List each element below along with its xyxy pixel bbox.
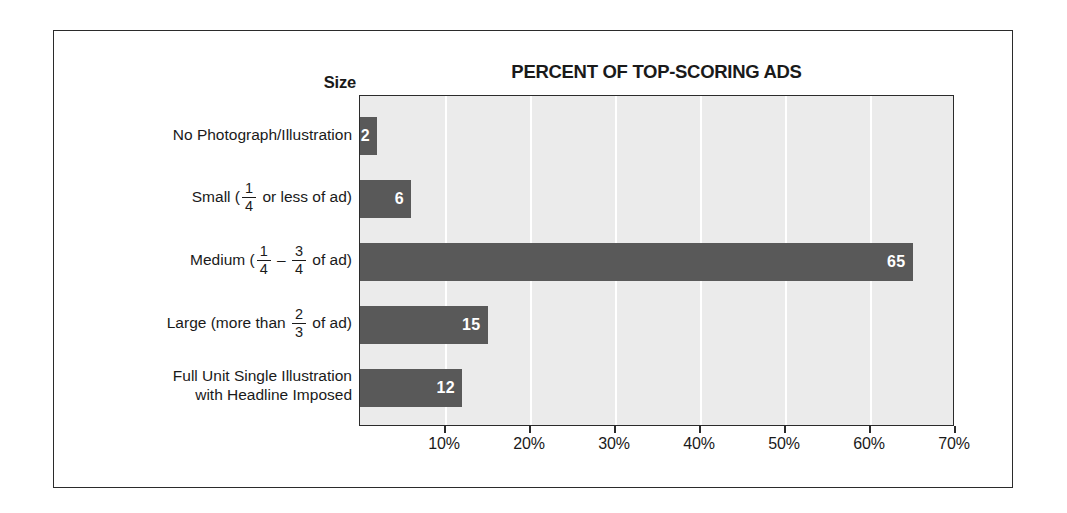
bar-value-label: 15: [462, 317, 481, 333]
fraction-denominator: 4: [257, 261, 271, 277]
x-tick-label-20: 20%: [494, 435, 564, 453]
bar-value-label: 6: [395, 191, 404, 207]
x-tick-label-30: 30%: [579, 435, 649, 453]
bar[interactable]: 12: [360, 369, 462, 407]
fraction: 23: [292, 307, 306, 339]
label-text: Small (: [192, 188, 240, 205]
label-text: Medium (: [190, 251, 255, 268]
label-text: –: [273, 251, 290, 268]
chart-figure: Size PERCENT OF TOP-SCORING ADS No Photo…: [53, 30, 1013, 488]
plot-area: 26651512: [359, 95, 954, 426]
x-tick-label-50: 50%: [749, 435, 819, 453]
bar-row: 6: [360, 180, 955, 218]
x-tick-60: [869, 426, 871, 433]
bar-row: 12: [360, 369, 955, 407]
x-tick-label-10: 10%: [409, 435, 479, 453]
category-label-line: Small (14 or less of ad): [192, 182, 352, 214]
fraction-numerator: 3: [292, 244, 306, 261]
bar-series: 26651512: [360, 96, 953, 425]
bar-row: 65: [360, 243, 955, 281]
x-tick-label-70: 70%: [919, 435, 989, 453]
fraction: 34: [292, 244, 306, 276]
category-label-medium: Medium (14 – 34 of ad): [114, 242, 352, 280]
fraction-denominator: 3: [292, 324, 306, 340]
fraction-denominator: 4: [292, 261, 306, 277]
label-text: of ad): [308, 314, 352, 331]
label-text: of ad): [308, 251, 352, 268]
fraction-numerator: 1: [242, 181, 256, 198]
fraction-numerator: 2: [292, 307, 306, 324]
category-label-line: Large (more than 23 of ad): [167, 308, 352, 340]
x-tick-70: [954, 426, 956, 433]
category-label-full-unit: Full Unit Single Illustrationwith Headli…: [114, 367, 352, 405]
bar-value-label: 65: [887, 254, 906, 270]
fraction: 14: [242, 181, 256, 213]
label-text: Full Unit Single Illustration: [173, 367, 352, 384]
x-tick-40: [699, 426, 701, 433]
bar[interactable]: 2: [360, 117, 377, 155]
category-label-line: No Photograph/Illustration: [173, 126, 352, 145]
bar[interactable]: 15: [360, 306, 488, 344]
fraction-numerator: 1: [257, 244, 271, 261]
x-tick-50: [784, 426, 786, 433]
label-text: with Headline Imposed: [195, 386, 352, 403]
category-label-line: with Headline Imposed: [114, 386, 352, 405]
x-tick-label-40: 40%: [664, 435, 734, 453]
bar[interactable]: 6: [360, 180, 411, 218]
category-label-small: Small (14 or less of ad): [114, 179, 352, 217]
category-label-large: Large (more than 23 of ad): [114, 305, 352, 343]
y-axis-title: Size: [254, 73, 356, 92]
x-tick-10: [444, 426, 446, 433]
fraction-denominator: 4: [242, 198, 256, 214]
label-text: or less of ad): [258, 188, 352, 205]
bar-value-label: 2: [361, 128, 370, 144]
category-label-column: No Photograph/IllustrationSmall (14 or l…: [114, 95, 352, 426]
label-text: No Photograph/Illustration: [173, 126, 352, 143]
category-label-line: Medium (14 – 34 of ad): [190, 245, 352, 277]
x-tick-20: [529, 426, 531, 433]
bar-row: 2: [360, 117, 955, 155]
bar-value-label: 12: [436, 380, 455, 396]
x-tick-30: [614, 426, 616, 433]
category-label-line: Full Unit Single Illustration: [114, 367, 352, 386]
x-tick-label-60: 60%: [834, 435, 904, 453]
bar-row: 15: [360, 306, 955, 344]
fraction: 14: [257, 244, 271, 276]
chart-title: PERCENT OF TOP-SCORING ADS: [359, 61, 954, 83]
bar[interactable]: 65: [360, 243, 913, 281]
category-label-no-photograph: No Photograph/Illustration: [114, 116, 352, 154]
label-text: Large (more than: [167, 314, 290, 331]
